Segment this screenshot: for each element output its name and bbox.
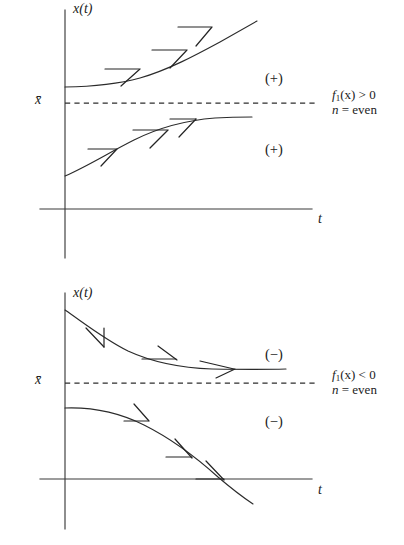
arrow-lower-2 (166, 439, 192, 458)
arrow-lower-3 (170, 119, 196, 137)
fixed-point-label: x̄ (35, 93, 41, 108)
condition-annotation: f1(x) < 0 n = even (332, 368, 377, 398)
condition-argument: (x) (340, 87, 355, 102)
trajectory-lower-decreasing (65, 408, 253, 504)
sign-label-upper: (−) (265, 347, 283, 362)
trajectory-lower-increasing (65, 117, 252, 176)
panel-bottom-canvas (0, 273, 404, 545)
condition-parity-value: even (352, 382, 377, 397)
condition-parity-relation: = (342, 382, 349, 397)
y-axis-label: x(t) (73, 2, 92, 17)
condition-line-1: f1(x) < 0 (332, 368, 377, 383)
figure-container: x(t) t x̄ (+) (+) f1(x) > 0 n = even (0, 0, 404, 545)
t-axis-label: t (318, 212, 322, 227)
fixed-point-label: x̄ (35, 373, 41, 388)
y-axis-label: x(t) (73, 286, 92, 301)
panel-negative-case: x(t) t x̄ (−) (−) f1(x) < 0 n = even (0, 273, 404, 545)
sign-label-lower: (−) (265, 414, 283, 429)
condition-line-1: f1(x) > 0 (332, 88, 377, 103)
t-axis-label: t (318, 483, 322, 498)
condition-parity-value: even (352, 102, 377, 117)
condition-line-2: n = even (332, 103, 377, 118)
condition-parity-variable: n (332, 382, 339, 397)
trajectory-upper-decreasing (65, 310, 286, 369)
condition-relation: < 0 (359, 367, 376, 382)
arrow-upper-3 (178, 27, 212, 46)
sign-label-lower: (+) (265, 142, 283, 157)
arrow-upper-2 (152, 50, 187, 68)
condition-parity-relation: = (342, 102, 349, 117)
sign-label-upper: (+) (265, 71, 283, 86)
condition-parity-variable: n (332, 102, 339, 117)
condition-relation: > 0 (359, 87, 376, 102)
condition-argument: (x) (340, 367, 355, 382)
trajectory-upper-increasing (65, 21, 257, 87)
panel-top-canvas (0, 0, 404, 273)
condition-annotation: f1(x) > 0 n = even (332, 88, 377, 118)
panel-positive-case: x(t) t x̄ (+) (+) f1(x) > 0 n = even (0, 0, 404, 273)
condition-line-2: n = even (332, 383, 377, 398)
